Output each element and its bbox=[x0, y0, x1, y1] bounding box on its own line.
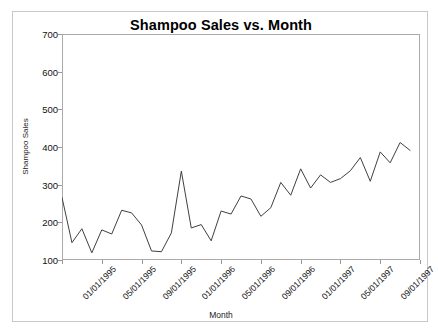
x-tick-label: 01/01/1995 bbox=[81, 264, 118, 301]
chart-title: Shampoo Sales vs. Month bbox=[13, 17, 429, 33]
y-tick-label: 200 bbox=[42, 217, 58, 228]
x-tick-label: 05/01/1997 bbox=[359, 264, 396, 301]
chart-figure: Shampoo Sales vs. Month Shampoo Sales 10… bbox=[12, 11, 428, 322]
y-axis-tick-labels: 100200300400500600700 bbox=[27, 34, 58, 260]
y-tick-label: 600 bbox=[42, 66, 58, 77]
x-tick-label: 05/01/1995 bbox=[120, 264, 157, 301]
series-shampoo-sales bbox=[62, 34, 420, 260]
y-tick-label: 400 bbox=[42, 142, 58, 153]
x-tick-mark bbox=[420, 260, 421, 264]
y-tick-label: 700 bbox=[42, 29, 58, 40]
y-tick-label: 100 bbox=[42, 255, 58, 266]
x-tick-label: 09/01/1996 bbox=[279, 264, 316, 301]
x-axis-title: Month bbox=[13, 310, 429, 320]
x-tick-label: 05/01/1996 bbox=[240, 264, 277, 301]
x-tick-label: 01/01/1997 bbox=[319, 264, 356, 301]
x-tick-label: 09/01/1997 bbox=[399, 264, 436, 301]
y-tick-label: 300 bbox=[42, 179, 58, 190]
x-tick-label: 01/01/1996 bbox=[200, 264, 237, 301]
y-tick-mark bbox=[58, 260, 62, 261]
y-tick-label: 500 bbox=[42, 104, 58, 115]
plot-area bbox=[62, 34, 420, 260]
x-tick-label: 09/01/1995 bbox=[160, 264, 197, 301]
